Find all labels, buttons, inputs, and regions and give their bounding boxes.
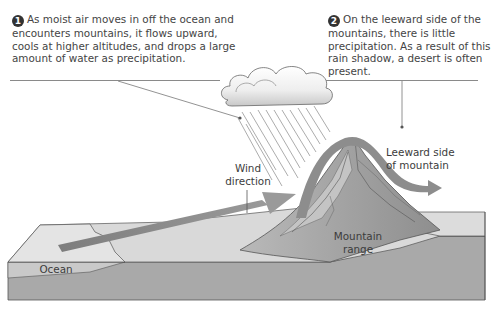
callout-2-text: On the leeward side of the mountains, th… bbox=[328, 13, 491, 77]
callout-number-1: 1 bbox=[12, 15, 24, 27]
callout-number-2: 2 bbox=[328, 15, 340, 27]
callout-2-rule bbox=[326, 80, 478, 81]
label-mountain-range: Mountain range bbox=[328, 230, 388, 255]
label-leeward-side: Leeward side of mountain bbox=[386, 146, 458, 171]
callout-2: 2On the leeward side of the mountains, t… bbox=[328, 13, 493, 77]
label-ocean: Ocean bbox=[36, 263, 76, 276]
callout-1-text: As moist air moves in off the ocean and … bbox=[12, 13, 235, 64]
leader-line-callout-1 bbox=[118, 81, 240, 118]
label-wind-direction: Wind direction bbox=[222, 162, 274, 187]
callout-1: 1As moist air moves in off the ocean and… bbox=[12, 13, 242, 65]
callout-1-rule bbox=[10, 80, 220, 81]
cloud-icon bbox=[221, 67, 332, 107]
